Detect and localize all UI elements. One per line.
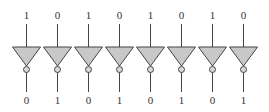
output-label: 0: [82, 94, 96, 106]
output-label: 1: [175, 94, 189, 106]
output-label: 1: [237, 94, 251, 106]
inversion-bubble: [210, 67, 216, 73]
not-gate: [168, 24, 196, 92]
input-label: 1: [144, 9, 158, 21]
inversion-bubble: [148, 67, 154, 73]
not-gate: [230, 24, 258, 92]
inversion-bubble: [179, 67, 185, 73]
not-gate: [106, 24, 134, 92]
not-gate-triangle: [44, 47, 72, 66]
not-gate-triangle: [13, 47, 41, 66]
inversion-bubble: [117, 67, 123, 73]
input-label: 1: [20, 9, 34, 21]
not-gate-triangle: [137, 47, 165, 66]
input-label: 1: [206, 9, 220, 21]
not-gate-triangle: [168, 47, 196, 66]
input-label: 1: [82, 9, 96, 21]
not-gate-triangle: [106, 47, 134, 66]
inversion-bubble: [241, 67, 247, 73]
input-label: 0: [113, 9, 127, 21]
not-gate: [44, 24, 72, 92]
output-label: 0: [206, 94, 220, 106]
not-gate-triangle: [199, 47, 227, 66]
input-label: 0: [175, 9, 189, 21]
gates-canvas: [0, 0, 269, 112]
output-label: 1: [113, 94, 127, 106]
output-label: 0: [144, 94, 158, 106]
not-gate: [13, 24, 41, 92]
not-gate-triangle: [230, 47, 258, 66]
inversion-bubble: [55, 67, 61, 73]
output-label: 0: [20, 94, 34, 106]
inversion-bubble: [86, 67, 92, 73]
input-label: 0: [237, 9, 251, 21]
input-label: 0: [51, 9, 65, 21]
not-gate: [75, 24, 103, 92]
output-label: 1: [51, 94, 65, 106]
not-gate: [137, 24, 165, 92]
inversion-bubble: [24, 67, 30, 73]
not-gate: [199, 24, 227, 92]
not-gate-triangle: [75, 47, 103, 66]
